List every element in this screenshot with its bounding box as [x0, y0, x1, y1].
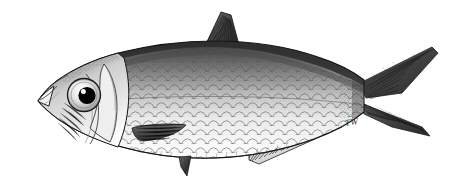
pupil: [78, 87, 95, 104]
fish-illustration: [0, 0, 465, 188]
eye: [68, 79, 101, 112]
eye-highlight: [81, 89, 86, 94]
artist-signature: TW: [344, 116, 358, 128]
caudal-peduncle: [340, 72, 366, 120]
illustration-plate: TW: [0, 0, 465, 188]
